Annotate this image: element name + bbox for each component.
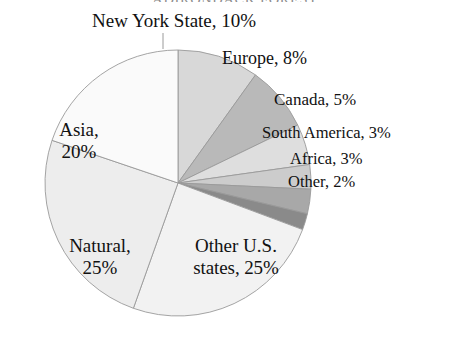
slice-label-natural-line2: 25%: [48, 257, 152, 279]
slice-label-new-york-state: New York State, 10%: [92, 10, 256, 32]
slice-label-asia-line1: Asia,: [33, 119, 125, 141]
slice-label-other-us-states-line2: states, 25%: [170, 257, 302, 279]
slice-label-asia-line2: 20%: [33, 141, 125, 163]
slice-label-natural: Natural, 25%: [48, 235, 152, 278]
slice-label-canada: Canada, 5%: [274, 90, 356, 109]
pie-chart-figure: ADIRONDACK FOREST New York State, 10% Eu…: [0, 0, 470, 338]
slice-label-other-us-states: Other U.S. states, 25%: [170, 235, 302, 278]
slice-label-asia: Asia, 20%: [33, 119, 125, 162]
slice-label-other: Other, 2%: [288, 173, 355, 192]
slice-label-europe: Europe, 8%: [222, 48, 307, 69]
slice-label-south-america: South America, 3%: [262, 124, 391, 143]
slice-label-natural-line1: Natural,: [48, 235, 152, 257]
slice-label-africa: Africa, 3%: [290, 150, 362, 169]
slice-label-other-us-states-line1: Other U.S.: [170, 235, 302, 257]
